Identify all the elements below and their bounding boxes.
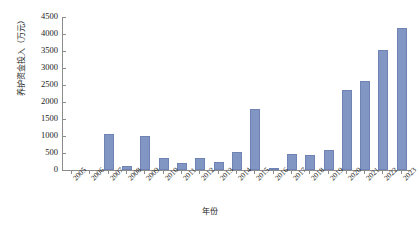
bar-chart-figure: 养护资金投入（万元） 05001000150020002500300035004… <box>0 0 419 227</box>
bar[interactable] <box>250 109 260 170</box>
x-tick: 2016 <box>263 171 281 201</box>
bar-slot <box>228 17 246 170</box>
x-tick: 2013 <box>209 171 227 201</box>
y-tick-label: 500 <box>45 147 58 157</box>
bar[interactable] <box>269 168 279 170</box>
bar[interactable] <box>324 150 334 170</box>
bar[interactable] <box>360 81 370 170</box>
y-tick-label: 4000 <box>41 28 58 38</box>
bar-slot <box>264 17 282 170</box>
bar-slot <box>338 17 356 170</box>
bar[interactable] <box>342 90 352 170</box>
x-tick: 2006 <box>80 171 98 201</box>
bar[interactable] <box>122 166 132 170</box>
x-tick: 2012 <box>190 171 208 201</box>
x-tick: 2007 <box>99 171 117 201</box>
bar-slot <box>100 17 118 170</box>
bar[interactable] <box>195 158 205 170</box>
bar-slot <box>173 17 191 170</box>
bar-slot <box>210 17 228 170</box>
bar-slot <box>63 17 81 170</box>
y-axis-title: 养护资金投入（万元） <box>15 0 26 116</box>
x-tick: 2010 <box>154 171 172 201</box>
x-tick-mark <box>273 171 274 174</box>
y-tick-label: 3500 <box>41 45 58 55</box>
bar-slot <box>393 17 411 170</box>
bar-slot <box>118 17 136 170</box>
y-tick-label: 0 <box>54 164 58 174</box>
bar-slot <box>301 17 319 170</box>
bar-slot <box>283 17 301 170</box>
plot-area: 050010001500200025003000350040004500 <box>62 17 411 171</box>
bar[interactable] <box>397 28 407 170</box>
y-tick-label: 1500 <box>41 113 58 123</box>
x-tick: 2009 <box>135 171 153 201</box>
x-axis-ticks: 2005200620072008200920102011201220132014… <box>62 171 410 201</box>
bar[interactable] <box>104 134 114 170</box>
x-tick: 2008 <box>117 171 135 201</box>
bar-slot <box>246 17 264 170</box>
bar-slot <box>136 17 154 170</box>
bar-slot <box>191 17 209 170</box>
x-tick: 2020 <box>337 171 355 201</box>
bar[interactable] <box>140 136 150 170</box>
y-tick-label: 1000 <box>41 130 58 140</box>
x-tick-mark <box>328 171 329 174</box>
bar-series <box>63 17 411 170</box>
x-tick: 2021 <box>355 171 373 201</box>
bar-slot <box>319 17 337 170</box>
bar-slot <box>356 17 374 170</box>
y-tick-label: 4500 <box>41 11 58 21</box>
bar[interactable] <box>378 50 388 170</box>
x-tick: 2005 <box>62 171 80 201</box>
x-tick: 2014 <box>227 171 245 201</box>
bar[interactable] <box>232 152 242 170</box>
bar-slot <box>374 17 392 170</box>
x-tick: 2019 <box>318 171 336 201</box>
bar-slot <box>155 17 173 170</box>
x-tick: 2018 <box>300 171 318 201</box>
x-tick: 2022 <box>373 171 391 201</box>
bar[interactable] <box>287 154 297 170</box>
y-tick-label: 2000 <box>41 96 58 106</box>
x-tick: 2011 <box>172 171 190 201</box>
y-tick-label: 3000 <box>41 62 58 72</box>
bar[interactable] <box>177 163 187 170</box>
bar[interactable] <box>214 162 224 170</box>
x-tick: 2015 <box>245 171 263 201</box>
bar[interactable] <box>305 155 315 170</box>
x-tick: 2017 <box>282 171 300 201</box>
bar[interactable] <box>159 158 169 170</box>
x-axis-title: 年份 <box>0 205 419 216</box>
bar-slot <box>81 17 99 170</box>
x-tick: 2023 <box>392 171 410 201</box>
y-tick-label: 2500 <box>41 79 58 89</box>
